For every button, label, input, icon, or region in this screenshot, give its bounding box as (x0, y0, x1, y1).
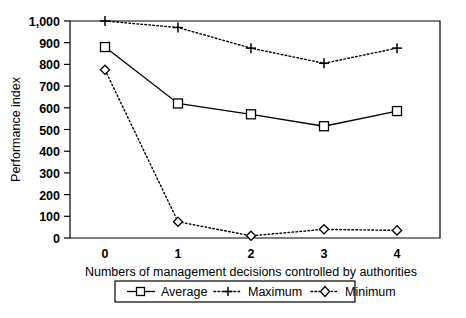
data-point (392, 43, 402, 53)
legend-marker-open-square-icon (137, 288, 145, 296)
marker-open-square-icon (393, 107, 402, 116)
data-point (100, 16, 110, 26)
data-point (392, 226, 401, 235)
y-tick-label-0: 0 (53, 232, 60, 246)
marker-open-diamond-icon (319, 225, 328, 234)
series-line-minimum (105, 70, 397, 236)
y-tick-label-1000: 1,000 (29, 15, 60, 29)
x-tick-label-0: 0 (102, 247, 109, 261)
x-tick-label-1: 1 (175, 247, 182, 261)
marker-open-diamond-icon (246, 231, 255, 240)
data-point (319, 225, 328, 234)
data-point (247, 110, 256, 119)
data-point (393, 107, 402, 116)
y-axis-ticks (64, 21, 70, 238)
legend-label-maximum: Maximum (248, 285, 302, 299)
y-tick-label-400: 400 (39, 145, 60, 159)
marker-open-diamond-icon (173, 217, 182, 226)
data-series-layer (100, 16, 402, 240)
chart-legend: Average Maximum Minimum (115, 281, 396, 302)
data-point (320, 122, 329, 131)
marker-open-square-icon (320, 122, 329, 131)
y-tick-label-800: 800 (39, 58, 60, 72)
y-tick-label-600: 600 (39, 102, 60, 116)
y-tick-label-200: 200 (39, 189, 60, 203)
y-tick-label-700: 700 (39, 80, 60, 94)
x-tick-label-4: 4 (394, 247, 401, 261)
series-line-maximum (105, 21, 397, 63)
y-axis-title: Performance index (9, 76, 23, 182)
marker-open-square-icon (247, 110, 256, 119)
chart-figure: 1,000 900 800 700 600 500 400 300 200 10… (0, 0, 466, 318)
y-tick-label-100: 100 (39, 210, 60, 224)
series-maximum (100, 16, 402, 68)
y-tick-label-300: 300 (39, 167, 60, 181)
series-minimum (100, 65, 401, 240)
data-point (173, 23, 183, 33)
series-average (101, 43, 402, 131)
data-point (246, 43, 256, 53)
y-tick-label-900: 900 (39, 37, 60, 51)
y-axis-tick-labels: 1,000 900 800 700 600 500 400 300 200 10… (29, 15, 60, 246)
plot-frame (70, 21, 440, 238)
x-axis-title: Numbers of management decisions controll… (85, 265, 417, 279)
marker-open-diamond-icon (392, 226, 401, 235)
data-point (174, 99, 183, 108)
marker-open-square-icon (101, 43, 110, 52)
performance-index-line-chart: 1,000 900 800 700 600 500 400 300 200 10… (0, 0, 466, 318)
x-tick-label-2: 2 (248, 247, 255, 261)
data-point (173, 217, 182, 226)
data-point (319, 58, 329, 68)
data-point (246, 231, 255, 240)
legend-label-minimum: Minimum (345, 285, 396, 299)
y-tick-label-500: 500 (39, 124, 60, 138)
marker-open-square-icon (174, 99, 183, 108)
data-point (100, 65, 109, 74)
x-axis-tick-labels: 0 1 2 3 4 (102, 247, 401, 261)
data-point (101, 43, 110, 52)
marker-open-diamond-icon (100, 65, 109, 74)
plot-border (70, 21, 440, 238)
legend-label-average: Average (161, 285, 207, 299)
x-tick-label-3: 3 (321, 247, 328, 261)
